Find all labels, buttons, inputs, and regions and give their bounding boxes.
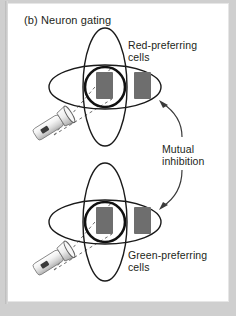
neuron-left-lower (96, 207, 113, 234)
flashlight-lower (30, 240, 76, 279)
neuron-left-upper (96, 72, 113, 99)
neuron-right-upper (134, 72, 151, 99)
red-preferring-cells-label: Red-preferring cells (128, 39, 197, 63)
flashlight-upper (30, 105, 76, 144)
inhibition-arrow-upper (162, 103, 182, 137)
inhibition-arrow-lower (162, 170, 182, 207)
figure-panel: (b) Neuron gating Red-preferring cells M… (8, 4, 228, 301)
neuron-right-lower (134, 207, 151, 234)
green-preferring-cells-label: Green-preferring cells (128, 249, 207, 273)
panel-label: (b) Neuron gating (24, 14, 111, 26)
mutual-inhibition-label: Mutual inhibition (162, 143, 204, 167)
figure-root: (b) Neuron gating Red-preferring cells M… (0, 0, 236, 316)
